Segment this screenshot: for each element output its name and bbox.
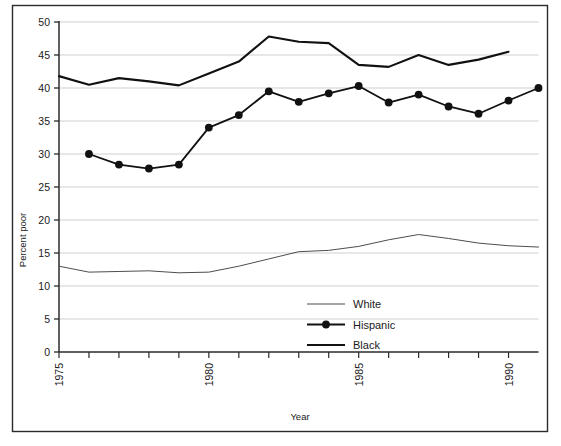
y-tick-label: 35 bbox=[38, 115, 50, 127]
x-tick-label: 1980 bbox=[203, 363, 215, 387]
legend-item-hispanic: Hispanic bbox=[307, 319, 396, 331]
data-point-hispanic bbox=[145, 165, 153, 173]
data-point-hispanic bbox=[325, 89, 333, 97]
y-tick-label: 5 bbox=[44, 313, 50, 325]
figure-panel: 05101520253035404550 1975198019851990 Wh… bbox=[0, 0, 561, 446]
data-point-hispanic bbox=[355, 82, 363, 90]
x-axis: 1975198019851990 bbox=[53, 352, 539, 386]
data-point-hispanic bbox=[475, 110, 483, 118]
data-point-hispanic bbox=[445, 103, 453, 111]
y-tick-label: 50 bbox=[38, 16, 50, 28]
legend-item-white: White bbox=[307, 298, 381, 310]
gridlines bbox=[59, 22, 539, 319]
data-point-hispanic bbox=[385, 99, 393, 107]
x-tick-label: 1990 bbox=[503, 363, 515, 387]
legend-label-hispanic: Hispanic bbox=[353, 319, 396, 331]
data-point-hispanic bbox=[265, 87, 273, 95]
data-point-hispanic bbox=[415, 91, 423, 99]
y-tick-label: 45 bbox=[38, 49, 50, 61]
y-axis: 05101520253035404550 bbox=[38, 16, 59, 358]
line-chart: 05101520253035404550 1975198019851990 Wh… bbox=[0, 0, 561, 446]
data-point-hispanic bbox=[235, 111, 243, 119]
y-tick-label: 15 bbox=[38, 247, 50, 259]
y-tick-label: 0 bbox=[44, 346, 50, 358]
legend-item-black: Black bbox=[307, 339, 380, 351]
data-point-hispanic bbox=[175, 161, 183, 169]
data-point-hispanic bbox=[535, 84, 543, 92]
data-point-hispanic bbox=[295, 98, 303, 106]
series-line-black bbox=[59, 37, 509, 86]
legend-marker-hispanic bbox=[322, 321, 330, 329]
data-point-hispanic bbox=[505, 97, 513, 105]
series-line-hispanic bbox=[89, 86, 539, 169]
y-axis-title: Percent poor bbox=[17, 213, 28, 267]
data-point-hispanic bbox=[115, 161, 123, 169]
y-tick-label: 10 bbox=[38, 280, 50, 292]
y-tick-label: 40 bbox=[38, 82, 50, 94]
series-line-white bbox=[59, 235, 539, 273]
x-tick-label: 1975 bbox=[53, 363, 65, 387]
x-tick-label: 1985 bbox=[353, 363, 365, 387]
figure-border bbox=[13, 6, 548, 432]
x-axis-title: Year bbox=[290, 411, 309, 422]
y-tick-label: 25 bbox=[38, 181, 50, 193]
y-tick-label: 30 bbox=[38, 148, 50, 160]
legend-label-white: White bbox=[353, 298, 381, 310]
y-tick-label: 20 bbox=[38, 214, 50, 226]
chart-legend: WhiteHispanicBlack bbox=[307, 298, 396, 351]
data-point-hispanic bbox=[85, 150, 93, 158]
legend-label-black: Black bbox=[353, 339, 380, 351]
series-lines bbox=[59, 37, 542, 273]
data-point-hispanic bbox=[205, 124, 213, 132]
